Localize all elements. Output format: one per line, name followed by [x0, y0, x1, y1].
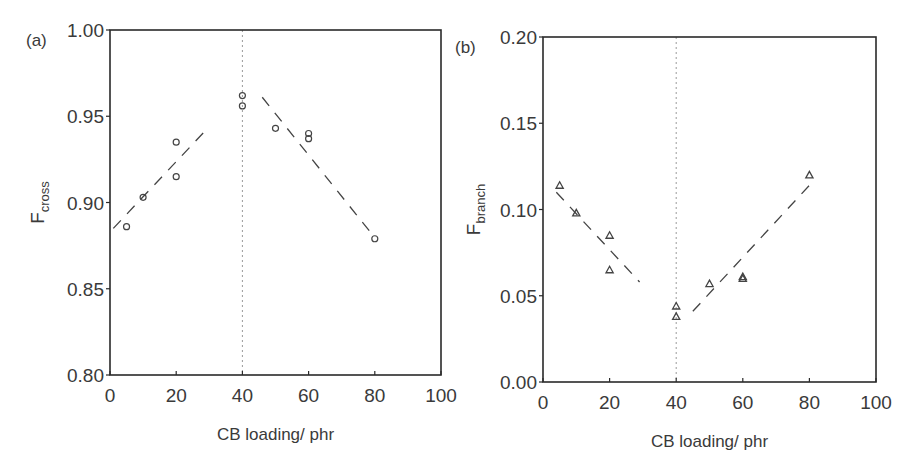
x-tick-label: 20 [599, 392, 620, 413]
data-point [273, 125, 279, 131]
y-axis-label: Fcross [27, 181, 52, 224]
panel-label: (b) [455, 38, 476, 57]
panel-a-chart: 0204060801000.800.850.900.951.00(a)CB lo… [26, 20, 457, 444]
trend-line [262, 97, 371, 233]
y-tick-label: 0.95 [67, 106, 104, 127]
data-point [606, 266, 613, 272]
x-tick-label: 0 [105, 385, 116, 406]
panel-label: (a) [26, 31, 47, 50]
y-tick-label: 0.20 [500, 27, 537, 48]
y-tick-label: 0.05 [500, 286, 537, 307]
y-tick-label: 0.90 [67, 193, 104, 214]
x-tick-label: 40 [666, 392, 687, 413]
data-point [806, 171, 813, 177]
x-tick-label: 40 [232, 385, 253, 406]
y-tick-label: 0.00 [500, 372, 537, 393]
x-tick-label: 20 [166, 385, 187, 406]
data-point [739, 275, 746, 281]
y-axis-label-subscript: branch [473, 184, 488, 224]
y-tick-label: 0.80 [67, 365, 104, 386]
y-axis-label-main: F [27, 212, 48, 224]
y-tick-label: 0.10 [500, 200, 537, 221]
panel-b-chart: 0204060801000.000.050.100.150.20(b)CB lo… [455, 27, 892, 451]
data-point [372, 236, 378, 242]
y-axis-label-main: F [463, 224, 484, 236]
data-point [706, 280, 713, 286]
x-axis-label: CB loading/ phr [651, 432, 769, 451]
plot-frame [110, 30, 441, 375]
figure: 0204060801000.800.850.900.951.00(a)CB lo… [0, 0, 914, 473]
plot-frame [543, 37, 876, 382]
y-tick-label: 0.15 [500, 113, 537, 134]
x-tick-label: 80 [364, 385, 385, 406]
trend-line [556, 192, 639, 282]
data-point [556, 182, 563, 188]
trend-line [693, 185, 810, 311]
x-tick-label: 0 [538, 392, 549, 413]
x-tick-label: 100 [860, 392, 892, 413]
y-tick-label: 1.00 [67, 20, 104, 41]
x-axis-label: CB loading/ phr [217, 425, 335, 444]
data-point [606, 232, 613, 238]
x-tick-label: 60 [732, 392, 753, 413]
data-point [124, 224, 130, 230]
data-point [173, 139, 179, 145]
trend-line [113, 130, 206, 228]
x-tick-label: 100 [425, 385, 457, 406]
y-tick-label: 0.85 [67, 279, 104, 300]
y-axis-label-subscript: cross [37, 181, 52, 213]
data-point [173, 174, 179, 180]
x-tick-label: 80 [799, 392, 820, 413]
x-tick-label: 60 [298, 385, 319, 406]
y-axis-label: Fbranch [463, 184, 488, 235]
